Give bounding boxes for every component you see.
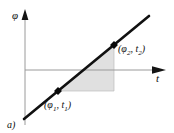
point-1-close: ) [67, 99, 72, 111]
phi-vs-t-plot: φ t (φ2, t2) (φ1, t1) a) [0, 0, 174, 133]
figure-panel-a: φ t (φ2, t2) (φ1, t1) a) [0, 0, 174, 133]
point-2-close: ) [141, 43, 146, 55]
panel-label: a) [7, 119, 16, 131]
y-axis-label: φ [12, 9, 18, 21]
